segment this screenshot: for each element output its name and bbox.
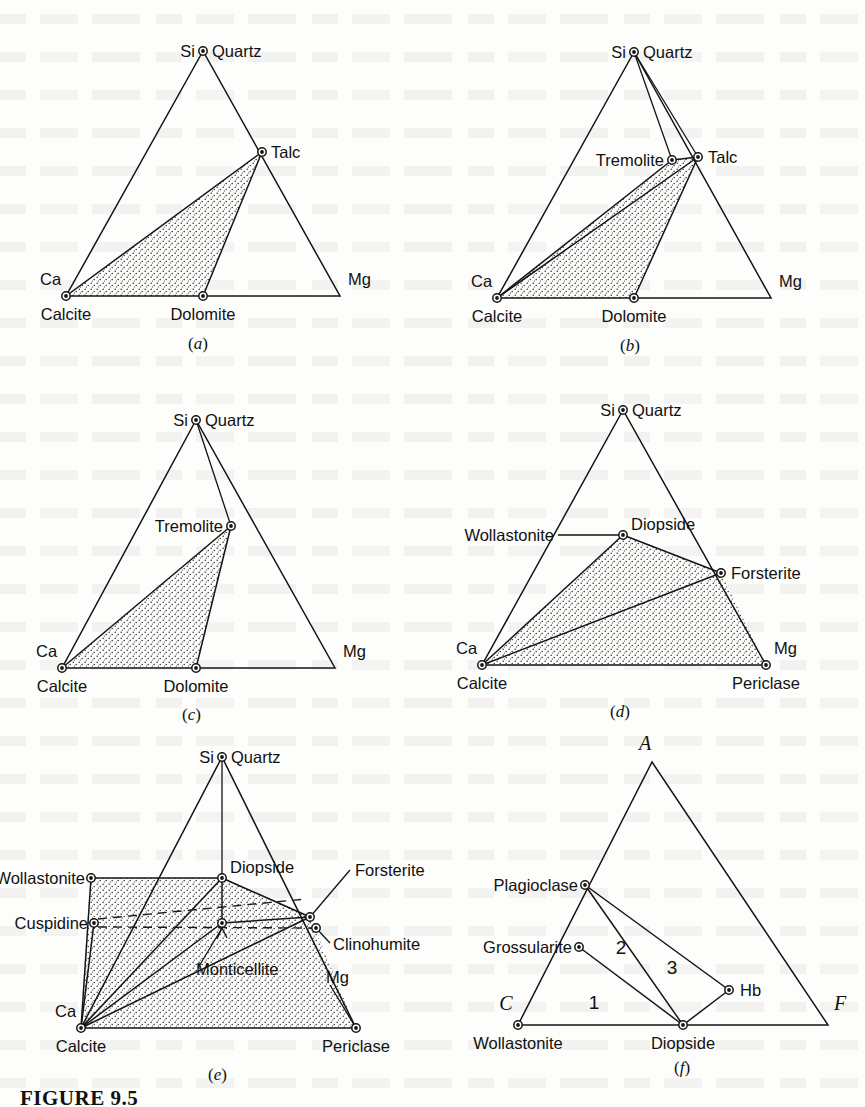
label-mg: Mg: [774, 639, 797, 657]
panel-b: Si Quartz Tremolite Talc Ca Mg Calcite D…: [430, 0, 865, 360]
label-mg: Mg: [348, 270, 371, 288]
node-talc-core: [260, 150, 264, 154]
panel-letter-d: (d): [610, 702, 630, 722]
label-si: Si: [611, 43, 626, 61]
label-mg: Mg: [343, 642, 366, 660]
label-wollastonite: Wollastonite: [473, 1034, 563, 1052]
panel-letter-a: (a): [188, 334, 208, 354]
label-grossularite: Grossularite: [483, 938, 572, 956]
panel-d: Si Quartz Wollastonite Diopside Forsteri…: [430, 390, 865, 730]
label-wollastonite: Wollastonite: [464, 526, 554, 544]
label-diopside: Diopside: [651, 1034, 715, 1052]
label-clinohumite: Clinohumite: [333, 935, 420, 953]
label-quartz: Quartz: [643, 43, 693, 61]
node-monticellite-core: [220, 921, 224, 925]
node-grossularite-core: [577, 945, 581, 949]
label-field-1: 1: [589, 992, 600, 1013]
label-calcite: Calcite: [41, 305, 91, 323]
label-mg: Mg: [779, 272, 802, 290]
node-quartz-core: [621, 408, 625, 412]
node-tremolite-core: [670, 158, 674, 162]
panel-f: A C F Plagioclase Grossularite Hb Wollas…: [430, 720, 865, 1080]
label-dolomite: Dolomite: [170, 305, 235, 323]
label-periclase: Periclase: [322, 1037, 390, 1055]
label-hb: Hb: [740, 981, 761, 999]
label-apex-c: C: [499, 992, 513, 1014]
label-talc: Talc: [271, 143, 300, 161]
label-plagioclase: Plagioclase: [494, 876, 578, 894]
node-calcite-core: [64, 294, 68, 298]
label-dolomite: Dolomite: [601, 307, 666, 325]
label-calcite: Calcite: [472, 307, 522, 325]
label-monticellite: Monticellite: [196, 960, 279, 978]
node-periclase-core: [354, 1026, 358, 1030]
label-quartz: Quartz: [231, 748, 281, 766]
node-hb-core: [727, 988, 731, 992]
tieline-plagioclase-hb: [585, 885, 729, 990]
node-quartz-core: [220, 755, 224, 759]
node-calcite-core: [480, 663, 484, 667]
tieline-plagioclase-diopside: [585, 885, 683, 1025]
label-si: Si: [173, 411, 188, 429]
label-si: Si: [600, 401, 615, 419]
label-periclase: Periclase: [732, 674, 800, 692]
panel-a: Si Quartz Talc Ca Mg Calcite Dolomite (a…: [0, 0, 430, 360]
tieline-diopside-hb: [683, 990, 729, 1025]
leader-forsterite: [310, 870, 350, 917]
node-calcite-core: [79, 1026, 83, 1030]
label-calcite: Calcite: [37, 677, 87, 695]
label-ca: Ca: [36, 642, 58, 660]
label-ca: Ca: [456, 639, 478, 657]
node-periclase-core: [764, 663, 768, 667]
label-field-2: 2: [616, 937, 627, 958]
node-quartz-core: [194, 418, 198, 422]
label-diopside: Diopside: [230, 858, 294, 876]
node-cuspidine-core: [92, 921, 96, 925]
node-wollastonite-core: [89, 876, 93, 880]
node-calcite-core: [60, 666, 64, 670]
node-forsterite-core: [719, 571, 723, 575]
node-calcite-core: [495, 296, 499, 300]
node-dolomite-core: [632, 296, 636, 300]
figure-caption: FIGURE 9.5: [20, 1086, 138, 1107]
label-quartz: Quartz: [212, 42, 262, 60]
node-forsterite-core: [308, 915, 312, 919]
node-tremolite-core: [229, 524, 233, 528]
label-forsterite: Forsterite: [731, 564, 801, 582]
label-apex-f: F: [833, 992, 847, 1014]
label-calcite: Calcite: [56, 1037, 106, 1055]
label-wollastonite: Wollastonite: [0, 869, 85, 887]
node-dolomite-core: [201, 294, 205, 298]
panel-c: Si Quartz Tremolite Ca Mg Calcite Dolomi…: [0, 385, 430, 730]
label-ca: Ca: [471, 272, 493, 290]
label-forsterite: Forsterite: [355, 861, 425, 879]
node-wollastonite-core: [516, 1023, 520, 1027]
label-quartz: Quartz: [205, 411, 255, 429]
node-diopside-core: [220, 876, 224, 880]
node-plagioclase-core: [583, 883, 587, 887]
label-tremolite: Tremolite: [155, 517, 223, 535]
label-quartz: Quartz: [632, 401, 682, 419]
dashed-cuspidine-clinohumite: [98, 927, 314, 928]
node-clinohumite-core: [314, 926, 318, 930]
label-calcite: Calcite: [457, 674, 507, 692]
panel-letter-e: (e): [208, 1065, 227, 1085]
node-talc-core: [696, 155, 700, 159]
label-dolomite: Dolomite: [163, 677, 228, 695]
panel-letter-b: (b): [620, 336, 640, 356]
label-cuspidine: Cuspidine: [15, 914, 88, 932]
node-quartz-core: [632, 50, 636, 54]
node-diopside-core: [681, 1023, 685, 1027]
label-tremolite: Tremolite: [596, 151, 664, 169]
label-talc: Talc: [708, 148, 737, 166]
label-ca: Ca: [40, 270, 62, 288]
node-quartz-core: [201, 49, 205, 53]
label-ca: Ca: [55, 1002, 77, 1020]
panel-letter-f: (f): [674, 1058, 690, 1078]
label-si: Si: [180, 42, 195, 60]
label-field-3: 3: [667, 957, 678, 978]
panel-e: Si Quartz Wollastonite Cuspidine Diopsid…: [0, 715, 450, 1080]
label-mg: Mg: [326, 968, 349, 986]
label-apex-a: A: [637, 732, 652, 754]
label-si: Si: [199, 748, 214, 766]
